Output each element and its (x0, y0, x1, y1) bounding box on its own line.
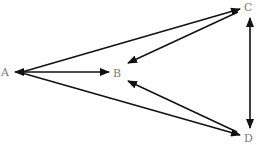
edge-d-b (128, 81, 237, 132)
node-c-label: C (244, 2, 252, 13)
node-d-label: D (244, 133, 253, 144)
edge-c-b (128, 12, 238, 63)
node-b-label: B (113, 68, 121, 79)
node-a-label: A (1, 67, 9, 78)
graph-diagram: A B C D (0, 0, 258, 145)
graph-edges (0, 0, 258, 145)
edge-a-c (22, 9, 240, 72)
